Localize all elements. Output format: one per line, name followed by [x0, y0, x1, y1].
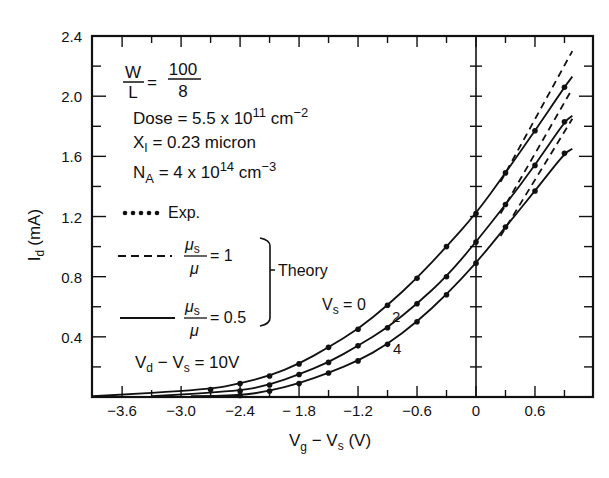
- y-axis-label: Id(mA): [25, 209, 47, 261]
- wl-annotation: W L = 100 8: [123, 60, 201, 102]
- chart: 0.40.81.21.62.02.4 −3.6−3.0−2.4− 1.8−1.2…: [0, 0, 609, 478]
- exp-point: [562, 84, 568, 90]
- x-tick-label: −0.6: [402, 402, 432, 419]
- svg-text:=: =: [147, 73, 157, 92]
- exp-point: [385, 342, 391, 348]
- theory-solid-curve: [191, 149, 572, 396]
- exp-point: [237, 393, 243, 399]
- exp-point: [355, 343, 361, 349]
- exp-point: [385, 302, 391, 308]
- svg-text:μ: μ: [189, 322, 199, 339]
- svg-text:μ: μ: [189, 260, 199, 277]
- svg-text:Exp.: Exp.: [168, 204, 200, 221]
- exp-point: [532, 188, 538, 194]
- x-tick-label: −2.4: [225, 402, 255, 419]
- exp-point: [355, 358, 361, 364]
- exp-point: [503, 202, 509, 208]
- x-tick-label: −1.2: [343, 402, 373, 419]
- svg-text:= 1: = 1: [210, 247, 233, 264]
- exp-point: [532, 163, 538, 169]
- vs-label-0: Vs = 0: [322, 296, 366, 317]
- svg-text:W: W: [125, 63, 141, 82]
- x-tick-labels: −3.6−3.0−2.4− 1.8−1.2−0.600.6: [107, 402, 545, 419]
- svg-text:μs: μs: [184, 298, 200, 318]
- exp-point: [296, 372, 302, 378]
- svg-text:Theory: Theory: [278, 262, 328, 279]
- y-tick-label: 2.4: [61, 28, 82, 45]
- vd-annotation: Vd − Vs = 10V: [135, 353, 240, 375]
- exp-point: [237, 381, 243, 387]
- exp-point: [414, 301, 420, 307]
- exp-point: [355, 327, 361, 333]
- exp-point: [326, 370, 332, 376]
- experimental-points: [208, 84, 567, 398]
- exp-point: [414, 319, 420, 325]
- legend: Exp. μs μ = 1 μs μ = 0.5 Theory: [118, 204, 328, 339]
- y-tick-label: 1.6: [61, 148, 82, 165]
- exp-point: [326, 345, 332, 351]
- theory-curves: [93, 51, 573, 396]
- theory-bracket-icon: [260, 238, 275, 326]
- exp-point: [473, 239, 479, 245]
- exp-point: [326, 360, 332, 366]
- exp-point: [296, 361, 302, 367]
- exp-point: [444, 274, 450, 280]
- svg-text:μs: μs: [184, 236, 200, 256]
- x-tick-label: 0: [472, 402, 480, 419]
- y-tick-label: 1.2: [61, 209, 82, 226]
- exp-point: [444, 292, 450, 298]
- x-axis-label: Vg − Vs (V): [289, 431, 371, 454]
- na-annotation: NA = 4 x 1014 cm−3: [133, 159, 276, 186]
- theory-dashed-curve: [501, 89, 573, 214]
- svg-text:100: 100: [169, 60, 197, 79]
- y-tick-labels: 0.40.81.21.62.02.4: [61, 28, 82, 346]
- y-tick-label: 0.8: [61, 269, 82, 286]
- exp-point: [267, 382, 273, 388]
- exp-point: [532, 128, 538, 134]
- svg-text:L: L: [128, 83, 137, 102]
- exp-point: [414, 275, 420, 281]
- exp-point: [296, 381, 302, 387]
- x-tick-label: −3.0: [166, 402, 196, 419]
- x-tick-label: −3.6: [107, 402, 137, 419]
- exp-point: [444, 244, 450, 250]
- y-tick-label: 2.0: [61, 88, 82, 105]
- exp-point: [267, 388, 273, 394]
- exp-point: [503, 224, 509, 230]
- x-tick-label: − 1.8: [282, 402, 316, 419]
- exp-point: [473, 211, 479, 217]
- exp-point: [208, 387, 214, 393]
- exp-point: [385, 325, 391, 331]
- vs-label-4: 4: [393, 340, 401, 357]
- y-tick-label: 0.4: [61, 329, 82, 346]
- vs-label-2: 2: [392, 308, 400, 325]
- exp-point: [503, 170, 509, 176]
- svg-text:8: 8: [178, 82, 187, 101]
- xi-annotation: XI = 0.23 micron: [133, 133, 256, 155]
- dose-annotation: Dose = 5.5 x 1011 cm−2: [133, 105, 308, 128]
- exp-point: [562, 151, 568, 157]
- exp-point: [562, 119, 568, 125]
- legend-exp-dots-icon: [123, 211, 160, 216]
- exp-point: [267, 373, 273, 379]
- x-tick-label: 0.6: [525, 402, 546, 419]
- exp-point: [473, 260, 479, 266]
- svg-text:= 0.5: = 0.5: [210, 309, 246, 326]
